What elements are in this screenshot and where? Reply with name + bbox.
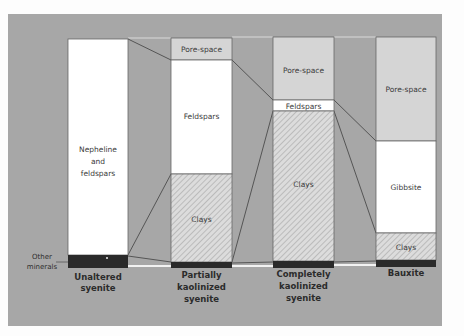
- svg-text:Gibbsite: Gibbsite: [391, 183, 422, 192]
- column-completely-kaolinized: Pore-space Feldspars Clays Completely ka…: [273, 37, 334, 303]
- svg-text:Clays: Clays: [293, 180, 313, 189]
- svg-text:Completely: Completely: [277, 269, 331, 279]
- svg-text:kaolinized: kaolinized: [279, 281, 328, 291]
- svg-text:Unaltered: Unaltered: [74, 272, 121, 282]
- column-partially-kaolinized: Pore-space Feldspars Clays Partially kao…: [171, 38, 232, 304]
- svg-text:Other: Other: [32, 253, 52, 261]
- svg-text:minerals: minerals: [27, 263, 58, 271]
- svg-text:Pore-space: Pore-space: [283, 66, 324, 75]
- svg-text:Nepheline: Nepheline: [79, 145, 117, 154]
- svg-text:Pore-space: Pore-space: [181, 45, 222, 54]
- svg-text:and: and: [91, 157, 105, 166]
- layer-other-minerals: [273, 261, 334, 268]
- svg-text:Bauxite: Bauxite: [388, 268, 425, 278]
- baseline-strips: [128, 264, 376, 267]
- svg-text:Clays: Clays: [191, 215, 211, 224]
- svg-text:Feldspars: Feldspars: [184, 112, 220, 121]
- other-minerals-label: Other minerals: [27, 253, 68, 271]
- weathering-diagram: Nepheline and feldspars Unaltered syenit…: [0, 0, 464, 336]
- column-unaltered-syenite: Nepheline and feldspars Unaltered syenit…: [68, 39, 128, 293]
- column-bauxite: Pore-space Gibbsite Clays Bauxite: [376, 37, 436, 278]
- svg-text:syenite: syenite: [184, 294, 219, 304]
- top-strips: [128, 37, 376, 38]
- layer-other-minerals: [171, 262, 232, 268]
- svg-text:Feldspars: Feldspars: [286, 102, 322, 111]
- svg-text:syenite: syenite: [80, 283, 115, 293]
- svg-text:syenite: syenite: [286, 293, 321, 303]
- layer-other-minerals: [376, 260, 436, 267]
- svg-text:kaolinized: kaolinized: [177, 282, 226, 292]
- other-minerals-dot: [106, 257, 108, 259]
- layer-other-minerals: [68, 255, 128, 268]
- connector-lines: [128, 39, 376, 263]
- svg-text:Pore-space: Pore-space: [385, 85, 426, 94]
- svg-text:feldspars: feldspars: [81, 169, 115, 178]
- svg-text:Clays: Clays: [396, 243, 416, 252]
- svg-text:Partially: Partially: [181, 270, 221, 280]
